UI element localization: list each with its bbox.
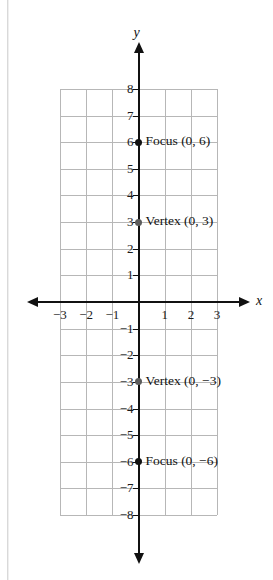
y-tick-mark xyxy=(133,89,138,90)
y-tick-label: 1 xyxy=(105,268,134,281)
point-annotation-focus: Focus (0, 6) xyxy=(146,134,211,148)
y-tick-label: 6 xyxy=(105,135,134,148)
point-annotation-focus: Focus (0, −6) xyxy=(146,454,218,468)
x-axis-label: x xyxy=(256,294,262,308)
y-tick-label: 5 xyxy=(105,162,134,175)
y-tick-label: −6 xyxy=(105,455,134,468)
y-tick-label: 7 xyxy=(105,109,134,122)
y-tick-label: 3 xyxy=(105,215,134,228)
y-tick-label: −4 xyxy=(105,402,134,415)
x-axis-arrow-left xyxy=(27,297,38,307)
y-tick-mark xyxy=(133,515,138,516)
y-tick-mark xyxy=(133,488,138,489)
y-tick-mark xyxy=(133,116,138,117)
y-axis-label: y xyxy=(134,26,140,40)
y-tick-mark xyxy=(133,355,138,356)
y-tick-label: 8 xyxy=(105,82,134,95)
y-tick-label: −2 xyxy=(105,348,134,361)
y-axis-line xyxy=(138,52,140,554)
data-point-focus[interactable] xyxy=(135,458,142,465)
x-tick-label: −3 xyxy=(47,308,73,321)
x-tick-label: −2 xyxy=(73,308,99,321)
figure-page: −3−2−112387654321−1−2−3−4−5−6−7−8xyFocus… xyxy=(0,0,273,580)
y-tick-mark xyxy=(133,409,138,410)
y-tick-label: 4 xyxy=(105,188,134,201)
x-tick-label: −1 xyxy=(99,308,125,321)
point-annotation-vertex: Vertex (0, −3) xyxy=(146,374,221,388)
y-tick-label: −7 xyxy=(105,481,134,494)
data-point-vertex[interactable] xyxy=(135,378,142,385)
y-tick-mark xyxy=(133,275,138,276)
y-tick-label: −8 xyxy=(105,508,134,521)
y-tick-label: −3 xyxy=(105,375,134,388)
y-tick-mark xyxy=(133,195,138,196)
data-point-focus[interactable] xyxy=(135,139,142,146)
x-axis-arrow-right xyxy=(239,297,250,307)
y-tick-mark xyxy=(133,249,138,250)
y-axis-arrow-up xyxy=(134,42,144,53)
y-axis-arrow-down xyxy=(134,553,144,564)
y-tick-label: 2 xyxy=(105,242,134,255)
y-tick-label: −5 xyxy=(105,428,134,441)
y-tick-mark xyxy=(133,435,138,436)
x-tick-label: 2 xyxy=(178,308,204,321)
x-tick-label: 3 xyxy=(204,308,230,321)
x-tick-label: 1 xyxy=(152,308,178,321)
coordinate-plane: −3−2−112387654321−1−2−3−4−5−6−7−8xyFocus… xyxy=(0,0,273,580)
y-tick-mark xyxy=(133,169,138,170)
y-tick-mark xyxy=(133,329,138,330)
point-annotation-vertex: Vertex (0, 3) xyxy=(146,214,214,228)
data-point-vertex[interactable] xyxy=(135,219,142,226)
y-tick-label: −1 xyxy=(105,322,134,335)
